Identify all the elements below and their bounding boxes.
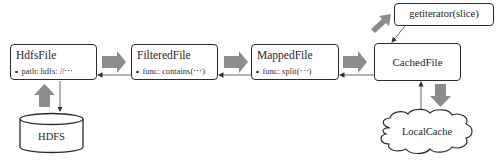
mappedfile-node[interactable]: MappedFile func: split(⋯) (251, 44, 339, 80)
flow-arrow-hdfsfile-to-filteredfile (102, 51, 126, 73)
filteredfile-node[interactable]: FilteredFile func: contains(⋯) (131, 44, 218, 80)
mappedfile-title: MappedFile (257, 49, 313, 61)
filteredfile-title: FilteredFile (137, 49, 191, 61)
hdfsfile-property: path: hdfs: //⋯ (15, 66, 73, 76)
cachedfile-node[interactable]: CachedFile (374, 43, 461, 81)
mappedfile-property: func: split(⋯) (256, 66, 311, 76)
dep-arrow-getiterator-to-cachedfile (392, 26, 405, 42)
flow-arrow-filteredfile-to-mappedfile (224, 51, 248, 73)
flow-arrow-mappedfile-to-cachedfile (343, 51, 367, 73)
hdfsfile-node[interactable]: HdfsFile path: hdfs: //⋯ (10, 44, 97, 80)
flow-arrow-cachedfile-to-localcache (430, 84, 451, 107)
bullet-icon (256, 71, 259, 74)
localcache-label: LocalCache (380, 126, 474, 137)
cachedfile-title: CachedFile (375, 56, 460, 68)
flow-arrow-cachedfile-to-getiterator (371, 14, 391, 33)
filteredfile-property: func: contains(⋯) (136, 66, 205, 76)
hdfsfile-property-text: path: hdfs: //⋯ (22, 66, 74, 76)
hdfsfile-title: HdfsFile (16, 49, 56, 61)
getiterator-title: getiterator(slice) (395, 8, 493, 19)
bullet-icon (136, 71, 139, 74)
bullet-icon (15, 71, 18, 74)
filteredfile-property-text: func: contains(⋯) (143, 66, 206, 76)
hdfs-label: HDFS (20, 131, 83, 142)
mappedfile-property-text: func: split(⋯) (263, 66, 312, 76)
flow-arrow-hdfs-to-hdfsfile (34, 84, 55, 107)
getiterator-node[interactable]: getiterator(slice) (394, 3, 494, 26)
